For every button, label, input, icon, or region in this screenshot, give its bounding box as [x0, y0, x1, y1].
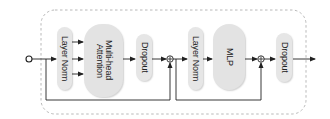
layer-norm-2-block: Layer Norm: [188, 27, 203, 90]
mlp-block: MLP: [213, 24, 245, 90]
layer-norm-2-label: Layer Norm: [191, 36, 200, 81]
dropout-1-block: Dropout: [136, 34, 152, 81]
transformer-block-diagram: Layer Norm Multi-head Attention Dropout …: [0, 0, 330, 119]
dropout-1-label: Dropout: [139, 42, 148, 73]
layer-norm-1-label: Layer Norm: [60, 36, 69, 81]
input-node-icon: [26, 56, 32, 62]
layer-norm-1-block: Layer Norm: [57, 27, 72, 90]
dropout-2-block: Dropout: [276, 33, 292, 82]
dashed-container: [41, 10, 306, 114]
multi-head-attention-label: Multi-head Attention: [94, 40, 113, 80]
mlp-label: MLP: [224, 48, 233, 66]
dropout-2-label: Dropout: [279, 42, 288, 73]
multi-head-attention-block: Multi-head Attention: [84, 24, 123, 97]
